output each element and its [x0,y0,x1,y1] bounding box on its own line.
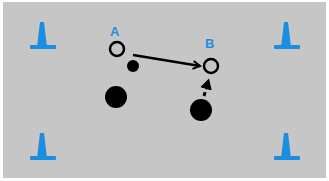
player-left-icon [105,86,127,108]
run-arrow [204,82,208,96]
marker-b-circle [204,59,218,73]
pass-arrow [133,55,200,66]
cone-bottom-right-icon [274,133,300,160]
marker-b-label: B [205,36,214,51]
cone-bottom-left-icon [30,133,56,160]
player-right-icon [190,99,212,121]
marker-a-circle [110,42,124,56]
cone-top-left-icon [30,22,56,49]
cone-top-right-icon [274,22,300,49]
ball-icon [127,60,139,72]
marker-a-label: A [110,24,120,39]
drill-diagram: A B [0,0,329,181]
